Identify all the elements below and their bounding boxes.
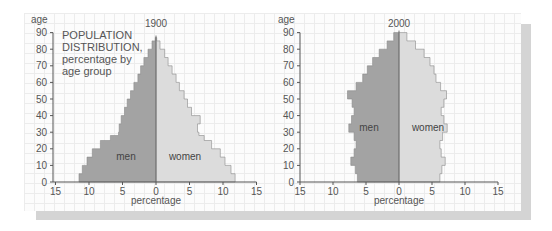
y-tick-label: 80 (283, 44, 295, 55)
y-tick-label: 60 (283, 77, 295, 88)
x-tick-label: 10 (217, 186, 229, 197)
x-tick-label: 5 (363, 186, 369, 197)
x-tick-label: 15 (492, 186, 504, 197)
x-tick-label: 10 (83, 186, 95, 197)
y-tick-label: 70 (283, 60, 295, 71)
x-tick-label: 5 (429, 186, 435, 197)
y-tick-label: 20 (283, 143, 295, 154)
x-axis-label-2000: percentage (374, 195, 424, 206)
annotation-line-3: percentage by (62, 53, 132, 65)
annotation-line-2: DISTRIBUTION, (62, 41, 143, 53)
chart-title-2000: 2000 (388, 18, 411, 29)
y-axis-label-1900: age (31, 14, 48, 25)
x-tick-label: 15 (251, 186, 263, 197)
x-tick-label: 5 (120, 186, 126, 197)
men-area-2000 (348, 33, 400, 182)
y-tick-label: 30 (283, 127, 295, 138)
annotation-line-1: POPULATION (62, 29, 132, 41)
y-tick-label: 50 (36, 94, 48, 105)
men-label-2000: men (359, 122, 378, 133)
x-tick-label: 5 (187, 186, 193, 197)
y-tick-label: 50 (283, 94, 295, 105)
y-tick-label: 30 (36, 127, 48, 138)
y-axis-label-2000: age (278, 14, 295, 25)
y-tick-label: 70 (36, 60, 48, 71)
pyramid-2000: 010203040506070809015105051015 2000 age … (278, 14, 504, 206)
y-tick-label: 0 (41, 177, 47, 188)
y-tick-label: 10 (36, 160, 48, 171)
y-tick-label: 80 (36, 44, 48, 55)
x-tick-label: 15 (294, 186, 306, 197)
x-tick-label: 15 (50, 186, 62, 197)
population-distribution-figure: 010203040506070809015105051015 1900 age … (0, 0, 552, 231)
y-tick-label: 90 (36, 27, 48, 38)
y-tick-label: 60 (36, 77, 48, 88)
women-label-2000: women (411, 122, 444, 133)
y-tick-label: 20 (36, 143, 48, 154)
y-tick-label: 10 (283, 160, 295, 171)
women-label-1900: women (168, 151, 201, 162)
pyramid-charts: 010203040506070809015105051015 1900 age … (0, 0, 552, 231)
y-tick-label: 40 (283, 110, 295, 121)
chart-annotation: POPULATION DISTRIBUTION, percentage by a… (62, 29, 143, 77)
x-tick-label: 10 (459, 186, 471, 197)
y-tick-label: 90 (283, 27, 295, 38)
chart-title-1900: 1900 (145, 18, 168, 29)
men-label-1900: men (116, 151, 135, 162)
women-area-2000 (399, 33, 447, 182)
x-tick-label: 10 (327, 186, 339, 197)
annotation-line-4: age group (62, 65, 112, 77)
x-axis-label-1900: percentage (131, 195, 181, 206)
y-tick-label: 40 (36, 110, 48, 121)
